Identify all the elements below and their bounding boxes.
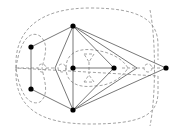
dual-graph bbox=[16, 8, 162, 126]
vertex-G bbox=[163, 65, 168, 70]
vertex-E bbox=[70, 65, 75, 70]
vertex-C bbox=[28, 86, 33, 91]
vertex-F bbox=[111, 65, 116, 70]
dual-lower-tri bbox=[84, 75, 94, 82]
vertex-D bbox=[70, 107, 75, 112]
edge-A-G bbox=[73, 26, 166, 68]
dual-vertex-right bbox=[144, 64, 152, 72]
edge-A-F bbox=[73, 26, 114, 68]
edge-D-F bbox=[73, 68, 114, 110]
edge-A-B bbox=[31, 26, 73, 47]
graph-diagram bbox=[0, 0, 178, 130]
dual-upper-tri bbox=[84, 54, 94, 62]
edge-D-G bbox=[73, 68, 166, 110]
vertex-B bbox=[28, 44, 33, 49]
vertex-A bbox=[70, 23, 75, 28]
dual-outer-loop bbox=[16, 8, 158, 124]
edge-C-D bbox=[31, 89, 73, 110]
